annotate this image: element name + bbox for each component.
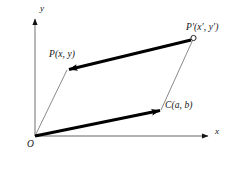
origin-label: O [27, 140, 34, 150]
vector-diagram-figure: P(x, y) P'(x', y') C(a, b) O x y [0, 0, 234, 172]
vector-p-to-p-prime [69, 40, 191, 70]
point-label-c: C(a, b) [165, 101, 193, 111]
point-label-p: P(x, y) [49, 50, 75, 60]
point-marker-p-prime [191, 35, 196, 40]
y-axis-label: y [40, 4, 44, 13]
x-axis-label: x [215, 127, 219, 136]
point-label-p-prime: P'(x', y') [186, 23, 218, 33]
